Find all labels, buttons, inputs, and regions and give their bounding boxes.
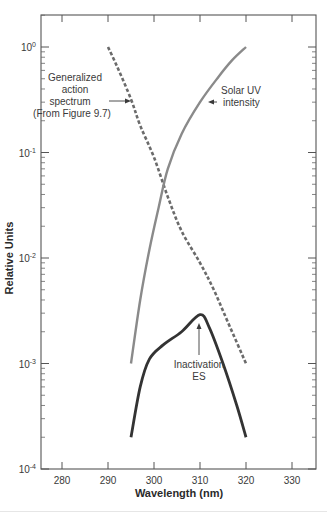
svg-text:action: action <box>62 84 89 95</box>
x-tick-label: 320 <box>238 475 255 486</box>
inactivation-es-line <box>131 315 246 438</box>
y-axis-label: Relative Units <box>3 222 15 295</box>
y-tick-label: 10-3 <box>19 358 36 370</box>
arrow-icon <box>197 323 202 355</box>
arrow-icon <box>208 100 217 105</box>
y-tick-label: 10-1 <box>19 147 36 159</box>
chart: 10010-110-210-310-4 280290300310320330 R… <box>0 0 327 513</box>
x-tick-label: 290 <box>100 475 117 486</box>
y-tick-label: 10-2 <box>19 252 36 264</box>
x-tick-label: 300 <box>146 475 163 486</box>
x-axis-label: Wavelength (nm) <box>135 487 224 499</box>
svg-text:Generalized: Generalized <box>48 72 102 83</box>
x-tick-label: 330 <box>284 475 301 486</box>
annotation-inactivation-es: Inactivation ES <box>174 359 225 382</box>
x-tick-label: 280 <box>54 475 71 486</box>
svg-text:ES: ES <box>192 371 206 382</box>
svg-text:spectrum: spectrum <box>49 96 90 107</box>
arrow-icon <box>109 99 131 104</box>
y-tick-label: 10-4 <box>19 463 36 475</box>
divider <box>0 511 327 512</box>
x-tick-label: 310 <box>192 475 209 486</box>
svg-text:intensity: intensity <box>223 97 260 108</box>
annotation-solar-uv: Solar UV intensity <box>221 85 261 108</box>
svg-text:Inactivation: Inactivation <box>174 359 225 370</box>
svg-text:Solar UV: Solar UV <box>221 85 261 96</box>
y-tick-label: 100 <box>21 41 36 53</box>
svg-text:(From Figure 9.7): (From Figure 9.7) <box>33 108 111 119</box>
x-axis-ticks: 280290300310320330 <box>54 15 301 486</box>
